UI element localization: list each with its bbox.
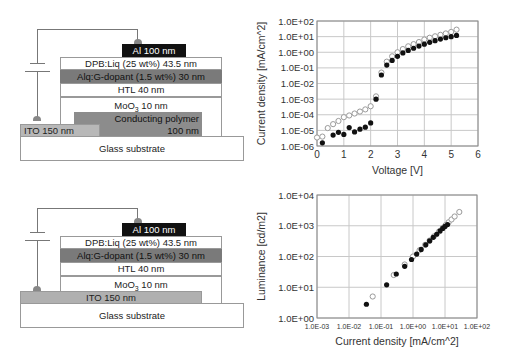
layer-dpb-liq: DPB:Liq (25 wt%) 43.5 nm — [60, 57, 222, 70]
x-tick-label: 1 — [341, 149, 347, 160]
layer-dpb-liq: DPB:Liq (25 wt%) 43.5 nm — [60, 236, 222, 249]
x-tick-label: 0 — [314, 149, 320, 160]
contact-bottom — [33, 116, 41, 121]
wire — [37, 29, 138, 30]
x-tick-label: 1.0E+00 — [400, 323, 426, 330]
series-open-circles — [370, 209, 462, 299]
y-tick-label: 1.0E+00 — [278, 47, 314, 58]
series-open-circles — [314, 27, 459, 140]
x-tick-label: 1.0E-01 — [369, 323, 394, 330]
y-tick-label: 1.0E-03 — [281, 94, 314, 105]
wire — [37, 71, 38, 120]
layer-glass-substrate: Glass substrate — [20, 136, 244, 161]
y-tick-label: 1.0E+02 — [278, 251, 314, 262]
x-tick-label: 6 — [475, 149, 481, 160]
wire — [37, 29, 38, 63]
series-filled-circles — [364, 222, 450, 307]
x-axis-label: Voltage [V] — [372, 164, 423, 176]
x-tick-label: 1.0E+01 — [432, 323, 458, 330]
wire — [37, 208, 138, 209]
layer-al: Al 100 nm — [122, 44, 186, 57]
layer-htl: HTL 40 nm — [60, 83, 222, 97]
device-diagram-bottom: Al 100 nm DPB:Liq (25 wt%) 43.5 nm Alq:G… — [0, 180, 250, 363]
battery-plate-short — [30, 232, 45, 233]
y-axis-label: Luminance [cd/m2] — [255, 212, 267, 301]
y-tick-label: 1.0E+04 — [278, 190, 314, 201]
x-axis-label: Current density [mA/cm^2] — [335, 335, 458, 347]
x-tick-label: 1.0E-02 — [337, 323, 362, 330]
y-tick-label: 1.0E+01 — [278, 282, 314, 293]
wire — [37, 240, 38, 288]
y-tick-label: 1.0E+02 — [278, 16, 314, 27]
grid — [317, 21, 478, 146]
y-tick-label: 1.0E-02 — [281, 78, 314, 89]
wire — [37, 208, 38, 232]
plot-frame — [317, 195, 477, 318]
y-tick-label: 1.0E-01 — [281, 62, 314, 73]
y-tick-label: 1.0E-06 — [281, 141, 314, 152]
y-tick-label: 1.0E+01 — [278, 31, 314, 42]
plot-frame — [317, 21, 478, 146]
layer-alq-dopant: Alq:G-dopant (1.5 wt%) 30 nm — [60, 249, 222, 262]
x-tick-label: 1.0E+02 — [464, 323, 490, 330]
layer-al: Al 100 nm — [122, 223, 186, 236]
x-tick-label: 1.0E-03 — [305, 323, 330, 330]
grid — [317, 195, 477, 318]
y-tick-label: 1.0E+03 — [278, 220, 314, 231]
y-tick-label: 1.0E-04 — [281, 109, 314, 120]
battery-plate-short — [30, 63, 45, 64]
x-tick-label: 3 — [395, 149, 401, 160]
y-tick-label: 1.0E-05 — [281, 125, 314, 136]
x-tick-label: 2 — [368, 149, 374, 160]
layer-alq-dopant: Alq:G-dopant (1.5 wt%) 30 nm — [60, 70, 222, 83]
layer-glass-substrate: Glass substrate — [20, 303, 244, 328]
series-filled-circles — [320, 33, 459, 146]
x-tick-label: 4 — [422, 149, 428, 160]
layer-htl: HTL 40 nm — [60, 262, 222, 276]
y-axis-label: Current density [mA/cm^2] — [255, 22, 267, 145]
x-tick-label: 5 — [448, 149, 454, 160]
device-diagram-top: Al 100 nm DPB:Liq (25 wt%) 43.5 nm Alq:G… — [0, 0, 250, 180]
y-tick-label: 1.0E+00 — [278, 313, 314, 324]
